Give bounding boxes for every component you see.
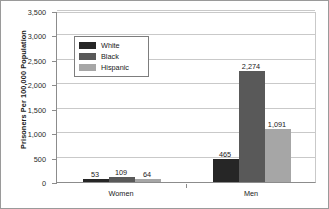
legend-swatch-hispanic <box>79 64 96 71</box>
legend-swatch-black <box>79 53 96 60</box>
legend-label-black: Black <box>101 53 119 60</box>
bar <box>239 71 265 182</box>
bar <box>135 179 161 182</box>
legend: White Black Hispanic <box>74 36 149 77</box>
bar <box>83 179 109 182</box>
x-tick-mark <box>186 184 187 188</box>
y-tick-mark <box>52 183 57 184</box>
bar <box>109 177 135 182</box>
y-tick-label: 0 <box>2 179 46 188</box>
legend-label-hispanic: Hispanic <box>101 64 129 71</box>
legend-swatch-white <box>79 42 96 49</box>
legend-item-hispanic[interactable]: Hispanic <box>79 62 144 73</box>
x-category-label: Women <box>108 189 133 198</box>
legend-item-white[interactable]: White <box>79 40 144 51</box>
legend-label-white: White <box>101 42 120 49</box>
bar-chart-figure: Prisoners Per 100,000 Population 05001,0… <box>0 0 329 209</box>
legend-item-black[interactable]: Black <box>79 51 144 62</box>
bar <box>265 129 291 182</box>
y-axis-title: Prisoners Per 100,000 Population <box>19 0 28 180</box>
x-category-label: Men <box>244 189 258 198</box>
gridline <box>57 10 315 11</box>
bar <box>213 159 239 182</box>
